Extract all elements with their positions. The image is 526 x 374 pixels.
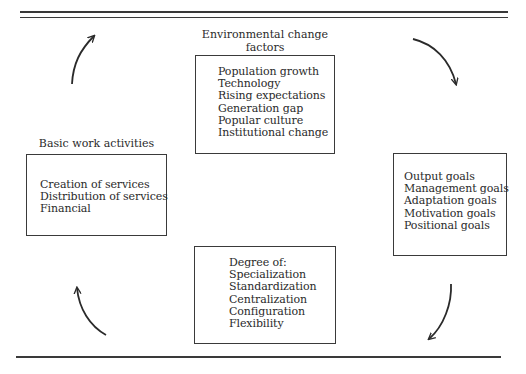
bottom-rule [16,356,501,358]
arrow-up-right-icon [72,36,94,84]
arrow-down-left-icon [429,284,451,339]
cycle-arrows [0,0,526,374]
arrow-left-up-icon [77,288,106,335]
arrow-right-down-icon [413,39,456,84]
